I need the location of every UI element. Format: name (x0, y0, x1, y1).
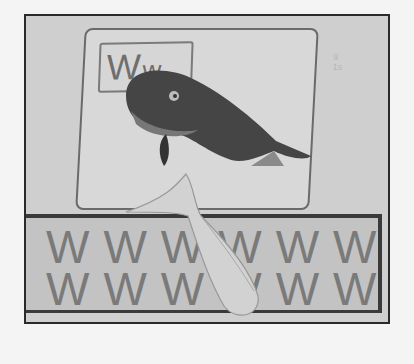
light-whale-icon (126, 174, 258, 315)
dark-whale-icon (126, 71, 311, 166)
whale-illustrations (26, 16, 388, 322)
photo-frame: Ww 9 1s WWWWWWW WWWWWWW (24, 14, 390, 324)
